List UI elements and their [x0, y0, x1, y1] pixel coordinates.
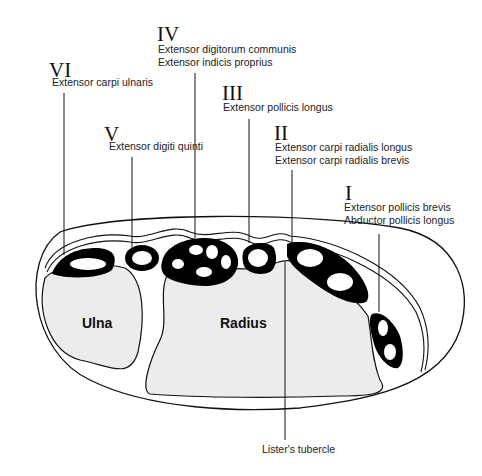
ulna-label: Ulna	[82, 315, 112, 331]
compartment-i-label-1: Extensor pollicis brevis	[344, 201, 451, 214]
compartment-iv-tendon	[221, 255, 231, 269]
compartment-i-label-2: Abductor pollicis longus	[344, 214, 454, 227]
radius-label: Radius	[220, 315, 267, 331]
compartment-iii-label: Extensor pollicis longus	[223, 101, 333, 114]
compartment-iii-tendon	[248, 249, 268, 267]
compartment-ii-label-1: Extensor carpi radialis longus	[275, 141, 412, 154]
compartment-iv-label-1: Extensor digitorum communis	[158, 43, 296, 56]
compartment-iv-numeral: IV	[157, 24, 179, 45]
compartment-i-tendon	[384, 344, 396, 360]
compartment-ii-tendon	[327, 273, 353, 291]
compartment-iv-tendon	[189, 245, 203, 255]
diagram-graphics	[0, 0, 482, 476]
compartment-iv-tendon	[196, 267, 212, 277]
wrist-cross-section-diagram: VI Extensor carpi ulnaris IV Extensor di…	[0, 0, 482, 476]
compartment-vi-label: Extensor carpi ulnaris	[52, 76, 153, 89]
compartment-ii-label-2: Extensor carpi radialis brevis	[275, 154, 409, 167]
compartment-iv-tendon	[172, 259, 184, 269]
compartment-iv-tendon	[206, 245, 218, 259]
compartment-ii-tendon	[297, 249, 323, 267]
compartment-i-tendon	[378, 320, 388, 336]
compartment-vi-tendon	[70, 258, 106, 270]
compartment-v-tendon	[132, 251, 152, 265]
listers-tubercle-label: Lister's tubercle	[262, 443, 335, 456]
compartment-iv-label-2: Extensor indicis proprius	[158, 56, 272, 69]
compartment-v-label: Extensor digiti quinti	[109, 140, 203, 153]
